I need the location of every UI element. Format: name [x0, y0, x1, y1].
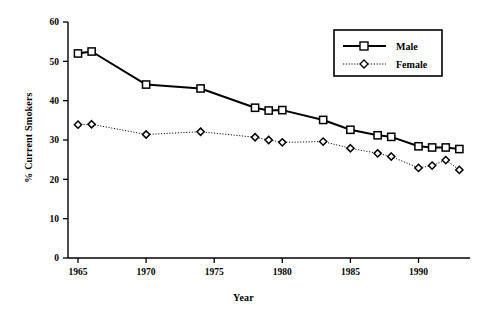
series-line-female [78, 124, 459, 170]
data-point-male-1985 [347, 126, 354, 133]
data-point-female-1988 [388, 153, 395, 160]
data-point-male-1992 [442, 144, 449, 151]
data-point-female-1980 [279, 139, 286, 146]
y-axis-ticks: 0102030405060 [50, 17, 69, 263]
y-tick-label: 0 [54, 253, 59, 263]
data-point-male-1970 [143, 81, 150, 88]
chart-plot-area: 0102030405060 196519701975198019851990 M… [0, 0, 487, 320]
data-point-male-1980 [279, 107, 286, 114]
legend-label-male: Male [396, 41, 418, 52]
data-point-male-1979 [265, 107, 272, 114]
data-point-female-1990 [415, 164, 422, 171]
data-point-male-1966 [88, 48, 95, 55]
x-axis-title: Year [0, 292, 487, 303]
y-tick-label: 10 [50, 214, 60, 224]
y-axis-title: % Current Smokers [23, 48, 34, 228]
data-point-female-1991 [429, 162, 436, 169]
data-point-female-1979 [265, 136, 272, 143]
legend-label-female: Female [396, 59, 428, 70]
data-point-female-1978 [251, 134, 258, 141]
data-point-male-1991 [429, 144, 436, 151]
data-point-female-1983 [320, 138, 327, 145]
data-point-male-1965 [74, 50, 81, 57]
legend-marker-square-icon [360, 42, 368, 50]
data-point-female-1993 [456, 166, 463, 173]
x-tick-label: 1970 [137, 267, 156, 277]
data-point-female-1965 [74, 121, 81, 128]
y-tick-label: 40 [50, 96, 60, 106]
y-tick-label: 50 [50, 57, 60, 67]
smoking-prevalence-line-chart: 0102030405060 196519701975198019851990 M… [0, 0, 487, 320]
data-point-male-1987 [374, 132, 381, 139]
data-point-female-1992 [442, 156, 449, 163]
data-point-female-1985 [347, 145, 354, 152]
x-tick-label: 1990 [409, 267, 428, 277]
x-tick-label: 1975 [205, 267, 224, 277]
data-point-male-1974 [197, 85, 204, 92]
chart-legend: Male Female [334, 30, 442, 76]
data-point-male-1988 [388, 133, 395, 140]
data-point-female-1987 [374, 150, 381, 157]
y-tick-label: 20 [50, 175, 60, 185]
data-point-male-1990 [415, 143, 422, 150]
data-point-female-1966 [88, 121, 95, 128]
data-point-male-1993 [456, 145, 463, 152]
y-tick-label: 60 [50, 17, 60, 27]
x-axis-ticks: 196519701975198019851990 [69, 258, 429, 277]
x-tick-label: 1985 [341, 267, 360, 277]
y-tick-label: 30 [50, 135, 60, 145]
data-point-male-1983 [320, 116, 327, 123]
data-point-male-1978 [251, 104, 258, 111]
data-point-female-1970 [143, 131, 150, 138]
x-tick-label: 1965 [69, 267, 88, 277]
series-female [74, 121, 463, 174]
x-tick-label: 1980 [273, 267, 292, 277]
data-point-female-1974 [197, 128, 204, 135]
